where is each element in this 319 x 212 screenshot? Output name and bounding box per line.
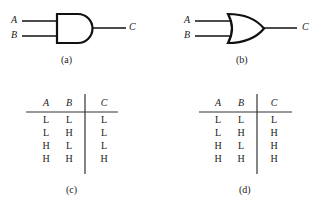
- table-c-cell: L: [97, 127, 111, 138]
- gate-b-output-label: C: [302, 21, 309, 32]
- table-c-cell: H: [62, 127, 76, 138]
- table-d-header-a: A: [211, 97, 225, 108]
- table-c-cell: H: [39, 140, 53, 151]
- table-d-cell: L: [267, 114, 281, 125]
- table-c-cell: H: [62, 153, 76, 164]
- or-gate-icon: [195, 14, 297, 43]
- gate-b-input-b-label: B: [184, 29, 190, 40]
- table-c-cell: L: [39, 114, 53, 125]
- table-d-cell: H: [211, 140, 225, 151]
- table-c-header-a: A: [39, 97, 53, 108]
- table-d-cell: H: [234, 127, 248, 138]
- gate-a-input-a-label: A: [11, 14, 17, 25]
- table-d-cell: H: [234, 153, 248, 164]
- table-d-cell: H: [267, 140, 281, 151]
- table-d-cell: H: [267, 153, 281, 164]
- table-d-cell: L: [211, 127, 225, 138]
- gate-b-input-a-label: A: [184, 14, 190, 25]
- gate-a-output-label: C: [129, 21, 136, 32]
- table-d-cell: H: [267, 127, 281, 138]
- table-d-header-c: C: [267, 97, 281, 108]
- table-d-cell: L: [234, 140, 248, 151]
- gate-b-caption: (b): [236, 54, 248, 65]
- gate-a-input-b-label: B: [11, 29, 17, 40]
- table-d-header-b: B: [234, 97, 248, 108]
- table-c-header-c: C: [97, 97, 111, 108]
- table-c-cell: L: [97, 114, 111, 125]
- table-d-cell: L: [211, 114, 225, 125]
- table-c-cell: H: [39, 153, 53, 164]
- gate-a-caption: (a): [61, 54, 72, 65]
- table-c-cell: L: [62, 140, 76, 151]
- table-d-cell: H: [211, 153, 225, 164]
- table-c-cell: H: [97, 153, 111, 164]
- table-c-header-b: B: [62, 97, 76, 108]
- table-d-cell: L: [234, 114, 248, 125]
- table-c-cell: L: [97, 140, 111, 151]
- and-gate-icon: [22, 14, 126, 43]
- table-c-cell: L: [62, 114, 76, 125]
- table-c-caption: (c): [66, 184, 77, 195]
- table-c-cell: L: [39, 127, 53, 138]
- table-d-caption: (d): [239, 184, 251, 195]
